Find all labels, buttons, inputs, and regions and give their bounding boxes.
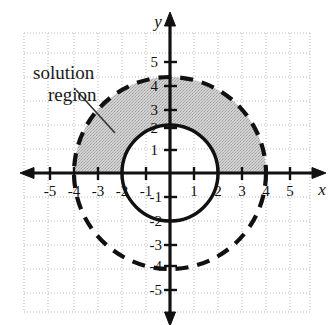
solution-region-label-line2: region [48, 84, 97, 105]
coordinate-plane-svg: -5 -4 -3 -2 -1 1 2 3 4 5 5 4 3 2 1 -1 -2… [0, 0, 334, 325]
y-tick-label: -5 [150, 282, 163, 298]
y-tick-label: 5 [151, 54, 159, 70]
x-axis-label: x [317, 180, 326, 199]
y-tick-label: -1 [150, 189, 163, 205]
y-tick-label: -3 [150, 237, 163, 253]
y-tick-label: -4 [150, 258, 163, 274]
x-tick-label: 1 [190, 183, 198, 199]
x-tick-label: -5 [44, 183, 57, 199]
y-tick-label: 2 [151, 120, 159, 136]
x-tick-label: 5 [286, 183, 294, 199]
x-tick-label: -4 [68, 183, 81, 199]
x-tick-label: -2 [116, 183, 129, 199]
x-tick-label: 3 [238, 183, 246, 199]
x-axis-arrow-right [312, 168, 326, 179]
y-tick-label: 3 [151, 102, 159, 118]
x-tick-label: 2 [214, 183, 222, 199]
x-tick-label: 4 [262, 183, 270, 199]
y-tick-label: 4 [151, 78, 159, 94]
y-tick-label: -2 [150, 213, 163, 229]
graph-figure: -5 -4 -3 -2 -1 1 2 3 4 5 5 4 3 2 1 -1 -2… [0, 0, 334, 325]
x-tick-label: -3 [92, 183, 105, 199]
y-axis-arrow-down [165, 312, 176, 325]
y-axis-label: y [152, 12, 162, 31]
y-axis-arrow-up [165, 12, 176, 26]
y-tick-label: 1 [151, 142, 159, 158]
solution-region-label-line1: solution [33, 62, 95, 83]
